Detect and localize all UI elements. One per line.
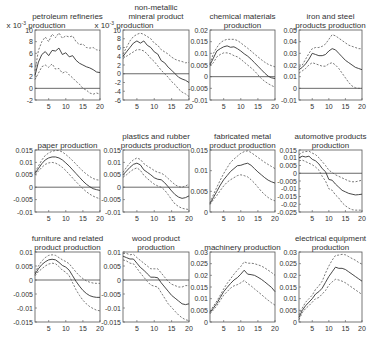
x-tick-label: 20: [358, 325, 366, 332]
y-tick-label: 0: [293, 85, 297, 92]
y-tick-label: 0.01: [283, 154, 297, 161]
subplot-7: -0.025-0.02-0.015-0.01-0.00500.0050.010.…: [277, 132, 366, 222]
y-tick-label: 0.02: [194, 27, 208, 34]
subplot-5: -0.01-0.00500.0050.010.0155101520plastic…: [101, 132, 193, 222]
subplot-title: products production: [295, 21, 365, 30]
scale-label: x 10: [6, 21, 22, 30]
x-tick-label: 15: [254, 215, 262, 222]
x-tick-label: 15: [79, 325, 87, 332]
y-tick-label: 0: [293, 319, 297, 326]
x-tick-label: 10: [325, 215, 333, 222]
series-lower-line: [123, 260, 189, 321]
series-upper-line: [35, 150, 100, 180]
subplot-title: paper production: [37, 141, 97, 150]
series-lower-line: [210, 53, 275, 87]
subplot-title: wood product: [131, 234, 181, 243]
y-tick-label: -0.005: [13, 291, 33, 298]
y-tick-label: 0.015: [190, 147, 208, 154]
y-tick-label: 0.015: [15, 147, 33, 154]
x-tick-label: 5: [135, 103, 139, 110]
subplot-title: mineral product: [128, 12, 184, 21]
subplot-9: -0.015-0.01-0.00500.0050.015101520wood p…: [101, 234, 193, 332]
y-tick-label: -0.015: [277, 193, 297, 200]
y-tick-label: 0.01: [19, 159, 33, 166]
series-upper-line: [210, 39, 275, 67]
series-lower-line: [210, 175, 275, 205]
x-tick-label: 20: [271, 215, 279, 222]
y-tick-label: 0.01: [107, 249, 121, 256]
y-tick-label: 0.005: [15, 263, 33, 270]
series-mean-line: [299, 156, 362, 195]
x-tick-label: 20: [271, 103, 279, 110]
subplot-title: electrical equipment: [295, 234, 367, 243]
subplot-title: petroleum refineries: [32, 12, 103, 21]
y-tick-label: -0.005: [13, 196, 33, 203]
y-tick-label: 0.03: [283, 249, 297, 256]
series-mean-line: [210, 270, 275, 312]
subplot-4: -0.01-0.00500.0050.010.0155101520paper p…: [13, 141, 104, 222]
subplot-title: plastics and rubber: [122, 132, 190, 141]
x-tick-label: 15: [79, 215, 87, 222]
series-lower-line: [299, 160, 362, 210]
y-tick-label: 0.005: [103, 171, 121, 178]
x-tick-label: 15: [342, 103, 350, 110]
y-tick-label: -2: [27, 97, 33, 104]
series-upper-line: [123, 158, 189, 187]
x-tick-label: 10: [237, 215, 245, 222]
y-tick-label: -0.01: [281, 97, 297, 104]
series-upper-line: [123, 33, 189, 63]
x-tick-label: 10: [150, 103, 158, 110]
y-tick-label: -0.015: [101, 319, 121, 326]
subplot-11: 00.0050.010.0150.020.0250.035101520elect…: [279, 234, 366, 332]
subplot-8: -0.015-0.01-0.00500.0050.015101520furnit…: [13, 234, 104, 332]
y-tick-label: 0: [29, 184, 33, 191]
y-tick-label: 0.015: [279, 147, 297, 154]
subplot-title: iron and steel: [306, 12, 354, 21]
x-tick-label: 10: [62, 215, 70, 222]
series-lower-line: [210, 280, 275, 313]
title-line: production: [114, 21, 154, 30]
plot-frame: [299, 150, 362, 212]
x-tick-label: 20: [96, 103, 104, 110]
subplot-title: non-metallic: [134, 3, 177, 12]
y-tick-label: -0.01: [192, 97, 208, 104]
x-tick-label: 10: [237, 103, 245, 110]
x-tick-label: 5: [310, 103, 314, 110]
series-upper-line: [123, 253, 189, 287]
series-mean-line: [123, 41, 189, 83]
y-tick-label: 0: [204, 73, 208, 80]
y-tick-label: 6: [29, 50, 33, 57]
y-tick-label: 0: [29, 85, 33, 92]
x-tick-label: 20: [185, 215, 193, 222]
y-tick-label: 0.005: [190, 62, 208, 69]
plot-frame: [210, 252, 275, 322]
y-tick-label: 0.005: [190, 307, 208, 314]
y-tick-label: 0.01: [107, 159, 121, 166]
x-tick-label: 5: [222, 325, 226, 332]
subplot-title: automotive products: [294, 132, 366, 141]
y-tick-label: 0: [117, 70, 121, 77]
x-tick-label: 20: [96, 215, 104, 222]
subplot-10: 00.0050.010.0150.020.0250.035101520machi…: [190, 243, 280, 332]
y-tick-label: -0.005: [101, 291, 121, 298]
subplot-title: furniture and related: [32, 234, 104, 243]
y-tick-label: 4: [29, 62, 33, 69]
x-tick-label: 5: [47, 103, 51, 110]
y-tick-label: -6: [115, 97, 121, 104]
plot-frame: [210, 30, 275, 100]
subplot-title: x 10-3 production: [6, 20, 65, 30]
subplot-1: -6-4-202468105101520non-metallicmineral …: [94, 3, 193, 110]
irf-figure: -202468105101520petroleum refineriesx 10…: [0, 0, 379, 344]
y-tick-label: -0.01: [281, 185, 297, 192]
plot-frame: [35, 30, 100, 100]
y-tick-label: -0.01: [17, 305, 33, 312]
y-tick-label: 0.015: [279, 284, 297, 291]
series-lower-line: [35, 162, 100, 198]
series-mean-line: [210, 163, 275, 204]
x-tick-label: 15: [254, 103, 262, 110]
y-tick-label: 0.005: [279, 162, 297, 169]
x-tick-label: 20: [185, 325, 193, 332]
x-tick-label: 15: [168, 215, 176, 222]
y-tick-label: 0.01: [194, 167, 208, 174]
subplot-title: products production: [121, 141, 191, 150]
